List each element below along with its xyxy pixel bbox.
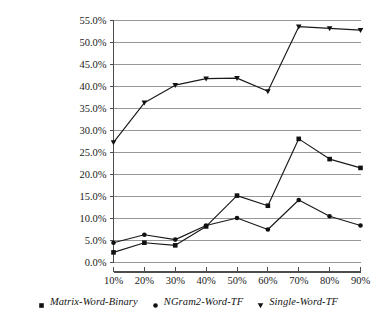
data-point-marker (142, 240, 147, 245)
data-point-marker (142, 232, 147, 237)
chart-legend: Matrix-Word-BinaryNGram2-Word-TFSingle-W… (0, 288, 375, 314)
legend-item-0[interactable]: Matrix-Word-Binary (37, 296, 138, 307)
data-point-marker (358, 166, 363, 171)
plot-area: 0.0%5.0%10.0%15.0%20.0%25.0%30.0%35.0%40… (0, 0, 375, 290)
data-point-marker (327, 214, 332, 219)
x-tick-label: 80% (320, 275, 340, 286)
chart-canvas: 0.0%5.0%10.0%15.0%20.0%25.0%30.0%35.0%40… (0, 0, 375, 290)
x-tick-label: 50% (227, 275, 247, 286)
x-tick-label: 70% (289, 275, 309, 286)
data-point-marker (111, 250, 116, 255)
y-tick-label: 20.0% (79, 169, 106, 180)
data-point-marker (204, 223, 209, 228)
y-tick-label: 45.0% (79, 59, 106, 70)
y-tick-label: 10.0% (79, 213, 106, 224)
series-line (114, 200, 361, 243)
triangle-down-marker-icon (256, 296, 265, 307)
y-tick-label: 55.0% (79, 15, 106, 26)
x-tick-label: 90% (351, 275, 371, 286)
series-ngram2-word-tf (111, 198, 363, 245)
data-point-marker (327, 157, 332, 162)
gridlines-group (114, 21, 361, 263)
series-line (114, 27, 361, 143)
x-axis-group (114, 21, 361, 273)
y-tick-label: 5.0% (85, 235, 107, 246)
x-tick-label: 40% (197, 275, 217, 286)
data-point-marker (39, 303, 44, 308)
data-point-marker (153, 303, 158, 308)
data-point-marker (296, 198, 301, 203)
x-tick-label: 60% (258, 275, 278, 286)
y-tick-label: 50.0% (79, 37, 106, 48)
y-tick-label: 35.0% (79, 103, 106, 114)
line-chart: 0.0%5.0%10.0%15.0%20.0%25.0%30.0%35.0%40… (0, 0, 375, 317)
legend-item-1[interactable]: NGram2-Word-TF (151, 296, 243, 307)
square-marker-icon (37, 296, 46, 307)
x-axis-tick-labels: 10%20%30%40%50%60%70%80%90% (104, 275, 371, 286)
data-series-group (111, 24, 364, 254)
x-tick-label: 20% (135, 275, 155, 286)
legend-item-label: Single-Word-TF (269, 296, 338, 307)
data-point-marker (296, 137, 301, 142)
data-point-marker (172, 83, 178, 88)
y-tick-label: 15.0% (79, 191, 106, 202)
x-tick-label: 10% (104, 275, 124, 286)
series-matrix-word-binary (111, 137, 363, 255)
data-point-marker (173, 243, 178, 248)
y-tick-label: 40.0% (79, 81, 106, 92)
data-point-marker (111, 240, 116, 245)
data-point-marker (266, 203, 271, 208)
circle-marker-icon (151, 296, 160, 307)
y-tick-label: 30.0% (79, 125, 106, 136)
data-point-marker (265, 89, 271, 94)
legend-item-label: Matrix-Word-Binary (50, 296, 138, 307)
data-point-marker (173, 237, 178, 242)
data-point-marker (235, 216, 240, 221)
data-point-marker (358, 223, 363, 228)
data-point-marker (258, 303, 264, 308)
x-tick-label: 30% (166, 275, 186, 286)
y-tick-label: 25.0% (79, 147, 106, 158)
y-axis-tick-labels: 0.0%5.0%10.0%15.0%20.0%25.0%30.0%35.0%40… (79, 15, 106, 268)
legend-item-label: NGram2-Word-TF (164, 296, 243, 307)
legend-item-2[interactable]: Single-Word-TF (256, 296, 338, 307)
data-point-marker (266, 227, 271, 232)
y-tick-label: 0.0% (85, 257, 107, 268)
data-point-marker (235, 193, 240, 198)
data-point-marker (111, 140, 117, 145)
